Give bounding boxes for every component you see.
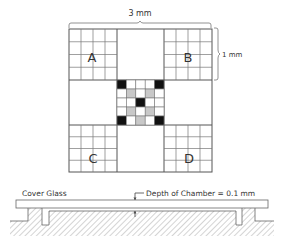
square-label-d: D: [184, 151, 194, 166]
center-cell-black: [117, 80, 126, 89]
center-cell-white: [136, 80, 145, 89]
top-dimension-brace: [69, 21, 211, 28]
center-cell-white: [126, 80, 135, 89]
hemocytometer-diagram: 3 mm 1 mm A B C D Cover Glass Depth of C…: [0, 0, 284, 241]
center-cell-white: [145, 98, 154, 107]
center-cell-white: [117, 89, 126, 98]
cover-glass: [16, 200, 268, 208]
center-cell-gray: [126, 107, 135, 116]
center-cell-white: [117, 107, 126, 116]
center-cell-gray: [145, 107, 154, 116]
center-cell-white: [136, 107, 145, 116]
center-cell-white: [136, 89, 145, 98]
center-cell-white: [155, 89, 164, 98]
center-cell-white: [126, 98, 135, 107]
center-cell-white: [117, 98, 126, 107]
depth-of-chamber-label: Depth of Chamber = 0.1 mm: [146, 189, 255, 198]
center-cell-black: [117, 116, 126, 125]
center-cell-black: [136, 98, 145, 107]
center-cell-gray: [126, 89, 135, 98]
center-cell-white: [155, 98, 164, 107]
top-dimension-label: 3 mm: [128, 9, 151, 18]
square-label-a: A: [88, 50, 97, 65]
center-cell-white: [155, 107, 164, 116]
center-subgrid: [117, 80, 164, 125]
center-cell-white: [126, 116, 135, 125]
square-label-b: B: [184, 50, 193, 65]
chamber-cross-section: [10, 193, 274, 236]
square-label-c: C: [88, 151, 97, 166]
center-cell-gray: [145, 89, 154, 98]
center-cell-black: [155, 80, 164, 89]
center-cell-white: [145, 80, 154, 89]
center-cell-black: [155, 116, 164, 125]
center-cell-gray: [136, 116, 145, 125]
side-dimension-brace: [214, 28, 220, 80]
side-dimension-label: 1 mm: [222, 51, 242, 59]
center-cell-white: [145, 116, 154, 125]
cover-glass-label: Cover Glass: [22, 189, 67, 198]
